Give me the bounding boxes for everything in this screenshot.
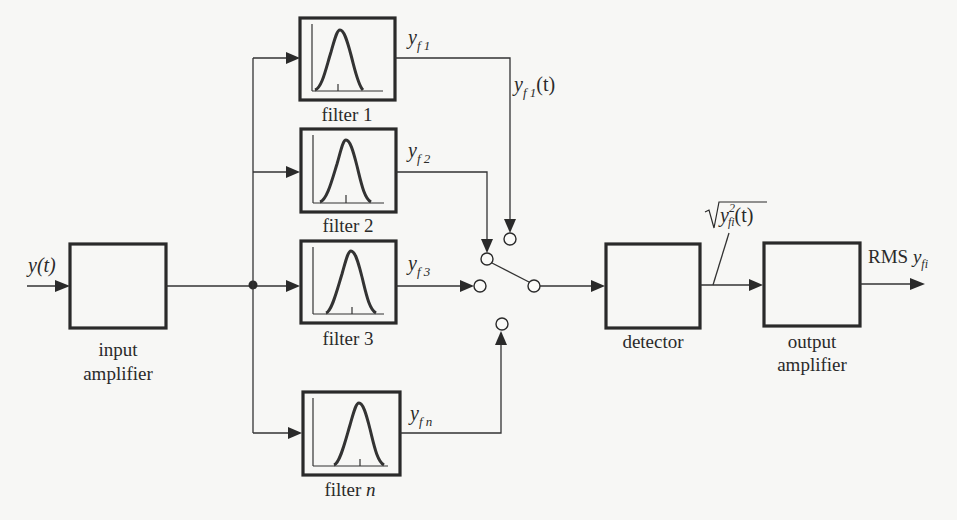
filter-n-label: filter n	[324, 479, 375, 500]
filter-2-block: filter 2	[301, 129, 396, 236]
detector-output-label: y2fi(t)	[705, 201, 767, 229]
filter-1-label: filter 1	[321, 104, 372, 125]
input-amplifier-label-line1: input	[98, 339, 138, 360]
switch-terminal-1[interactable]	[504, 233, 516, 245]
channel-selector-switch[interactable]	[474, 233, 540, 330]
filter-3-block: filter 3	[301, 241, 396, 349]
switch-blade[interactable]	[492, 263, 529, 282]
arrow-icon	[288, 427, 302, 439]
switch-input-label: yf 1(t)	[512, 73, 555, 100]
input-amplifier-label-line2: amplifier	[83, 363, 153, 384]
switch-pole	[528, 280, 540, 292]
input-signal-label: y(t)	[26, 254, 56, 277]
filter-2-output-label: yf 2	[406, 139, 431, 166]
bandpass-response-icon	[313, 398, 388, 466]
arrow-icon	[910, 278, 925, 290]
filter-3-label: filter 3	[322, 328, 373, 349]
distribution-bus	[166, 52, 302, 439]
arrow-icon	[286, 280, 300, 292]
output-amplifier-label-line1: output	[788, 331, 837, 352]
bandpass-response-icon	[313, 135, 384, 203]
bandpass-response-icon	[312, 24, 383, 91]
filter-2-label: filter 2	[322, 215, 373, 236]
input-signal: y(t)	[26, 254, 70, 292]
arrow-icon	[460, 280, 474, 292]
input-amplifier-block: input amplifier	[70, 244, 166, 384]
arrow-icon	[286, 166, 300, 178]
switch-terminal-3[interactable]	[474, 280, 486, 292]
arrow-icon	[286, 52, 300, 64]
arrow-icon	[591, 280, 605, 292]
arrow-icon	[495, 331, 507, 345]
arrow-icon	[55, 280, 70, 292]
arrow-icon	[749, 279, 763, 291]
detector-block: detector	[606, 244, 700, 352]
output-amplifier-label-line2: amplifier	[777, 354, 847, 375]
filter-output-wires	[395, 58, 516, 433]
detector-label: detector	[622, 331, 684, 352]
filter-1-output-label: yf 1	[406, 26, 430, 53]
label-leader-line	[713, 233, 729, 285]
svg-text:y2fi(t): y2fi(t)	[718, 201, 753, 229]
bandpass-response-icon	[313, 247, 384, 314]
final-output-label: RMS yfi	[868, 246, 928, 271]
filter-n-block: filter n	[303, 392, 400, 500]
switch-terminal-2[interactable]	[481, 253, 493, 265]
filter-n-output-label: yf n	[408, 402, 432, 429]
arrow-icon	[481, 239, 493, 253]
filter-3-output-label: yf 3	[406, 252, 431, 279]
arrow-icon	[504, 219, 516, 233]
switch-terminal-n[interactable]	[496, 318, 508, 330]
output-amplifier-block: output amplifier	[764, 243, 860, 375]
filter-1-block: filter 1	[300, 18, 395, 125]
rms-analyzer-block-diagram: y(t) input amplifier filter 1	[0, 0, 957, 520]
